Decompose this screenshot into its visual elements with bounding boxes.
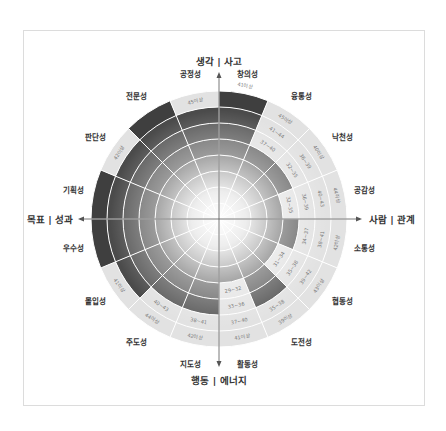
sector-label: 몰입성 xyxy=(85,296,106,306)
sector-label: 소통성 xyxy=(354,243,375,253)
axis-label-left: 목표 | 성과 xyxy=(27,214,73,225)
axis-label-right: 사람 | 관계 xyxy=(369,214,415,225)
arrow-right-icon xyxy=(356,217,362,222)
arrow-left-icon xyxy=(78,217,84,222)
sector-label: 창의성 xyxy=(237,69,258,79)
sector-label: 전문성 xyxy=(126,91,147,101)
radial-chart: 41이상37~4041~4445이상32~3536~3940이상32~3536~… xyxy=(0,0,446,431)
sector-label: 주도성 xyxy=(126,337,147,347)
sector-label: 공감성 xyxy=(354,185,375,195)
sector-label: 지도성 xyxy=(180,359,201,369)
sector-label: 판단성 xyxy=(85,132,106,142)
sector-label: 기획성 xyxy=(63,185,84,195)
sector-label: 협동성 xyxy=(332,296,353,306)
sector-label: 도전성 xyxy=(291,337,312,347)
range-label: 41이상 xyxy=(237,81,254,91)
axis-label-top: 생각 | 사고 xyxy=(196,56,242,67)
sector-label: 공정성 xyxy=(180,69,201,79)
arrow-up-icon xyxy=(217,72,222,78)
sector-label: 융통성 xyxy=(291,91,312,101)
axis-label-bottom: 행동 | 에너지 xyxy=(191,375,246,386)
sector-label: 낙천성 xyxy=(332,132,353,142)
sector-label: 우수성 xyxy=(63,243,84,253)
arrow-down-icon xyxy=(217,361,222,367)
sector-label: 활동성 xyxy=(237,359,258,369)
